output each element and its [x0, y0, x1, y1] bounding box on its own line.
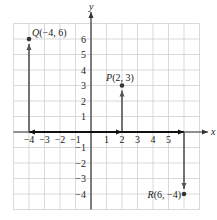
arrow-icon	[120, 91, 125, 97]
x-tick-label: −4	[24, 134, 35, 145]
x-tick-label: 5	[166, 134, 171, 145]
y-axis-label: y	[88, 1, 94, 12]
x-tick-label: −3	[39, 134, 50, 145]
y-axis-arrow-icon	[89, 12, 94, 18]
coordinate-plane: xy −4−3−2−112345654321−1−2−3−4 Q(−4, 6)P…	[0, 0, 217, 220]
y-tick-label: 6	[81, 34, 86, 45]
y-tick-label: 2	[81, 96, 86, 107]
arrow-icon	[182, 183, 187, 189]
y-tick-label: 1	[81, 111, 86, 122]
y-tick-label: 3	[81, 80, 86, 91]
y-tick-label: −3	[75, 173, 86, 184]
x-tick-label: 4	[151, 134, 156, 145]
arrow-icon	[178, 130, 184, 135]
grid	[14, 24, 200, 210]
point-r	[182, 192, 187, 197]
x-tick-label: 3	[135, 134, 140, 145]
point-label-r: R(6, −4)	[147, 189, 181, 201]
x-tick-label: 2	[120, 134, 125, 145]
point-p	[120, 83, 125, 88]
y-tick-label: −2	[75, 158, 86, 169]
y-tick-label: 5	[81, 49, 86, 60]
x-tick-label: −2	[55, 134, 66, 145]
y-tick-label: −4	[75, 189, 86, 200]
x-tick-label: 1	[104, 134, 109, 145]
point-label-p: P(2, 3)	[105, 72, 134, 84]
arrow-icon	[27, 44, 32, 50]
x-axis-arrow-icon	[202, 130, 208, 135]
point-q	[27, 37, 32, 42]
y-tick-label: −1	[75, 142, 86, 153]
point-label-q: Q(−4, 6)	[32, 27, 67, 39]
y-tick-label: 4	[81, 65, 86, 76]
x-axis-label: x	[210, 126, 216, 137]
